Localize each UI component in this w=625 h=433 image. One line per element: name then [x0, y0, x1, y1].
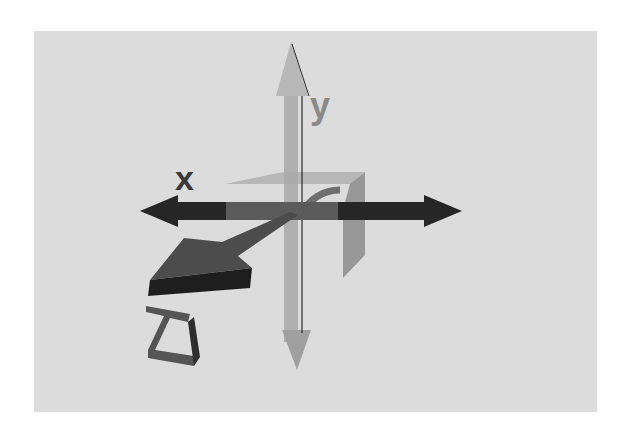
yz-plane [343, 172, 365, 278]
z-axis [148, 212, 298, 296]
y-axis-label: y [310, 85, 330, 126]
z-axis-label-shape [146, 306, 200, 366]
x-axis-label: x [175, 159, 194, 197]
coordinate-axes-diagram: x y z [0, 0, 625, 433]
diagram-stage: x y z [0, 0, 625, 433]
